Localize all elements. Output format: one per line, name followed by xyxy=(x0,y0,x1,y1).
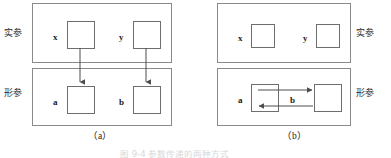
cell-label-y-a: y xyxy=(119,32,124,42)
cell-a-a xyxy=(67,86,95,114)
subfigure-a: 实参 形参 x y a b （a） xyxy=(0,0,196,158)
cell-label-x-b: x xyxy=(238,33,243,43)
cell-label-b-middle: b xyxy=(290,95,295,105)
cell-label-y-b: y xyxy=(303,33,308,43)
caption-subfigure-b: （b） xyxy=(282,131,307,142)
cell-label-a-b: a xyxy=(238,95,243,105)
cell-y-a xyxy=(133,21,161,49)
cell-x-a xyxy=(67,21,95,49)
caption-subfigure-a: （a） xyxy=(88,131,112,142)
panel-actual-parameters-b: x y xyxy=(217,3,351,63)
panel-formal-parameters-a: a b xyxy=(32,68,172,126)
cell-right-b xyxy=(314,84,342,112)
label-formal-parameter-b: 形参 xyxy=(356,88,374,99)
figure-bottom-caption-partial: 图 9-4 参数传递的两种方式 xyxy=(120,150,290,158)
panel-formal-parameters-b: a b xyxy=(217,68,351,126)
subfigure-b: 实参 形参 x y a b xyxy=(196,0,391,158)
cell-label-b-a: b xyxy=(119,97,124,107)
label-formal-parameter-a: 形参 xyxy=(4,88,22,99)
cell-label-a-a: a xyxy=(53,97,58,107)
panel-actual-parameters-a: x y xyxy=(32,3,172,63)
cell-x-b xyxy=(251,24,275,48)
cell-a-b xyxy=(251,84,279,112)
label-actual-parameter-a: 实参 xyxy=(4,28,22,39)
cell-y-b xyxy=(316,24,340,48)
cell-b-a xyxy=(133,86,161,114)
cell-label-x-a: x xyxy=(53,32,58,42)
label-actual-parameter-b: 实参 xyxy=(356,28,374,39)
figure-parameter-passing: 实参 形参 x y a b （a） xyxy=(0,0,391,158)
